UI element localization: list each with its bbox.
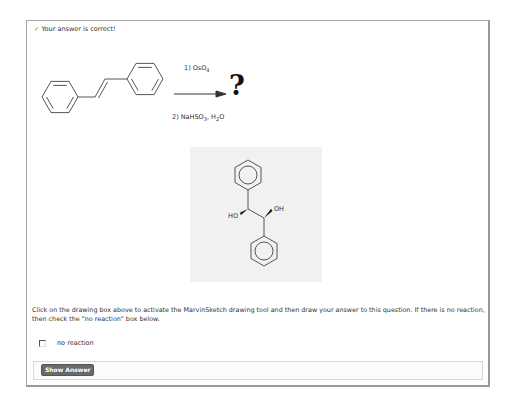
no-reaction-checkbox[interactable] [39, 340, 46, 347]
oh-label: OH [274, 205, 284, 213]
no-reaction-label[interactable]: no reaction [57, 339, 94, 347]
marvin-drawing-box[interactable]: HO OH [190, 147, 322, 282]
reagent-step-1: 1) OsO4 [184, 64, 210, 73]
ho-label: HO [228, 212, 238, 220]
no-reaction-option[interactable]: no reaction [39, 339, 94, 347]
show-answer-button[interactable]: Show Answer [41, 364, 94, 376]
product-question-mark: ? [229, 72, 245, 99]
hydrobenzoin-structure: HO OH [190, 147, 322, 282]
reagent-step-2: 2) NaHSO3, H2O [172, 113, 224, 122]
reaction-arrow [174, 91, 226, 97]
instructions-text: Click on the drawing box above to activa… [32, 306, 488, 324]
reaction-scheme [0, 0, 512, 140]
stilbene-molecule [42, 63, 163, 112]
answer-bar [33, 361, 483, 380]
